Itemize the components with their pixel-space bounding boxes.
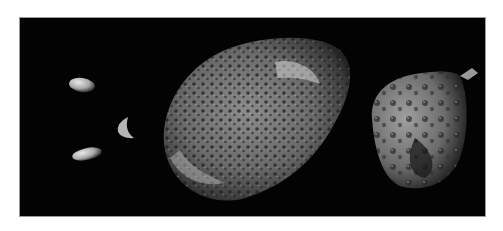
small-moon-1 — [68, 76, 96, 93]
right-cratered-moon — [372, 68, 478, 188]
large-cratered-moon — [164, 38, 350, 201]
small-moon-2 — [118, 117, 134, 138]
small-moon-3 — [71, 145, 103, 163]
photo-panel — [19, 17, 486, 217]
